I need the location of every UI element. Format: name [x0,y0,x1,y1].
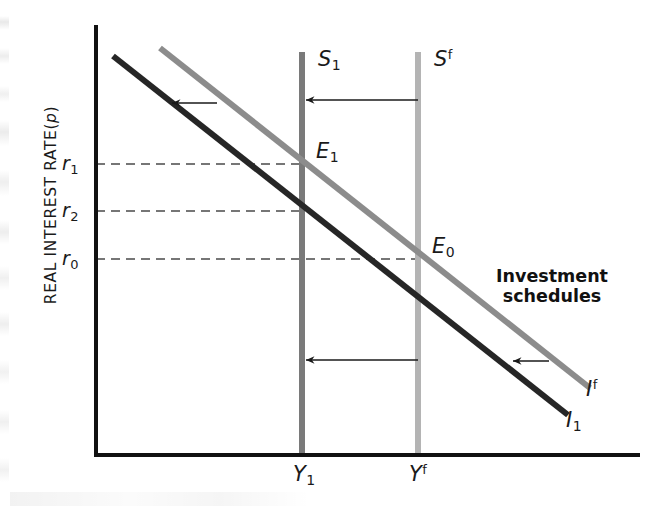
curve-if-sup: f [592,377,597,392]
x-tick-y1-sub: 1 [306,472,315,488]
equilibrium-e1-sub: 1 [329,149,338,165]
economics-chart-figure: REAL INTEREST RATE(p) r1 r2 r0 Y1 Yf S1 … [0,0,661,509]
y-axis-symbol-p: p [42,113,60,123]
equilibrium-label-e1: E1 [316,139,339,165]
curve-label-sf: Sf [434,47,452,71]
curve-label-if: If [586,377,597,401]
y-axis-title: REAL INTEREST RATE(p) [42,90,60,320]
y-axis-paren-open: ( [42,123,60,130]
curve-label-i1: I1 [566,408,582,434]
curve-sf-sup: f [447,47,452,62]
y-tick-r1-base: r [62,152,70,174]
annotation-investment-schedules: Investment schedules [482,266,622,307]
x-tick-label-y1: Y1 [293,462,315,488]
equilibrium-e1-base: E [316,139,329,163]
y-tick-r2-base: r [62,199,70,221]
equilibrium-label-e0: E0 [432,234,455,260]
investment-curve-i1 [113,56,568,415]
curve-i1-sub: 1 [572,418,581,434]
shift-arrows [172,100,549,361]
x-tick-yf-sup: f [422,462,427,477]
investment-curve-if [160,48,590,388]
equilibrium-e0-base: E [432,234,445,258]
curve-s1-sub: 1 [331,57,340,73]
y-tick-label-r1: r1 [62,152,79,177]
y-tick-r1-sub: 1 [70,162,79,177]
curve-label-s1: S1 [318,47,341,73]
chart-canvas [0,0,661,509]
x-tick-yf-base: Y [409,462,422,486]
annotation-line-2: schedules [482,286,622,306]
y-tick-r2-sub: 2 [70,209,79,224]
curve-sf-base: S [434,47,447,71]
equilibrium-e0-sub: 0 [445,244,454,260]
annotation-line-1: Investment [482,266,622,286]
curve-s1-base: S [318,47,331,71]
y-tick-label-r2: r2 [62,199,79,224]
x-tick-label-yf: Yf [409,462,427,486]
x-tick-y1-base: Y [293,462,306,486]
dashed-guides [96,164,422,259]
y-tick-r0-sub: 0 [70,257,79,272]
y-axis-title-text: REAL INTEREST RATE [42,130,60,305]
y-tick-label-r0: r0 [62,247,79,272]
y-tick-r0-base: r [62,247,70,269]
y-axis-paren-close: ) [42,106,60,113]
